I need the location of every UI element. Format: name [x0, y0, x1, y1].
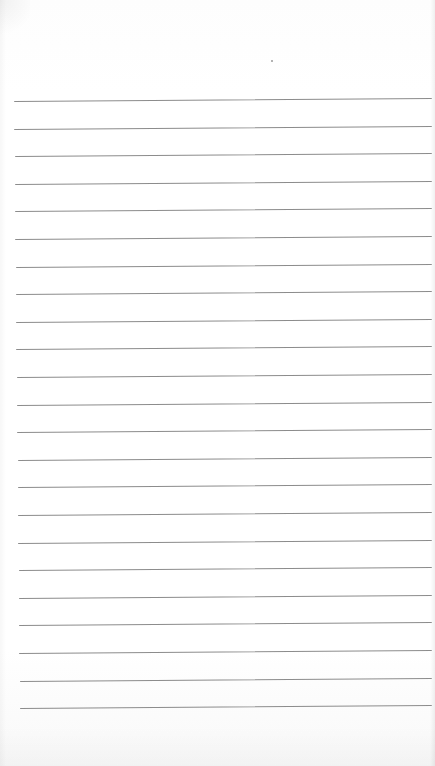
- ruled-line: [19, 650, 432, 654]
- ruled-line: [18, 484, 432, 488]
- ruled-line: [16, 319, 432, 323]
- ruled-line: [14, 98, 432, 102]
- ruled-line: [15, 181, 432, 185]
- ruled-line: [16, 346, 432, 350]
- ruled-line: [20, 678, 432, 682]
- paper-speck: [271, 60, 273, 62]
- right-edge-shadow: [430, 0, 435, 766]
- ruled-line: [19, 622, 432, 626]
- lined-paper-sheet: [0, 0, 435, 766]
- bottom-fade: [0, 726, 435, 766]
- ruled-line: [16, 291, 432, 295]
- ruled-line: [17, 402, 432, 406]
- ruled-line: [18, 457, 432, 461]
- ruled-line: [19, 567, 432, 571]
- ruled-line: [15, 236, 432, 240]
- left-edge-shadow: [0, 0, 6, 766]
- ruled-line: [15, 153, 432, 157]
- ruled-line: [15, 208, 432, 212]
- ruled-line: [18, 512, 432, 516]
- ruled-line: [18, 540, 432, 544]
- ruled-line: [16, 264, 432, 268]
- ruled-line: [17, 374, 432, 378]
- ruled-line: [14, 126, 432, 130]
- ruled-line: [17, 429, 432, 433]
- ruled-line: [19, 595, 432, 599]
- ruled-line: [20, 705, 432, 709]
